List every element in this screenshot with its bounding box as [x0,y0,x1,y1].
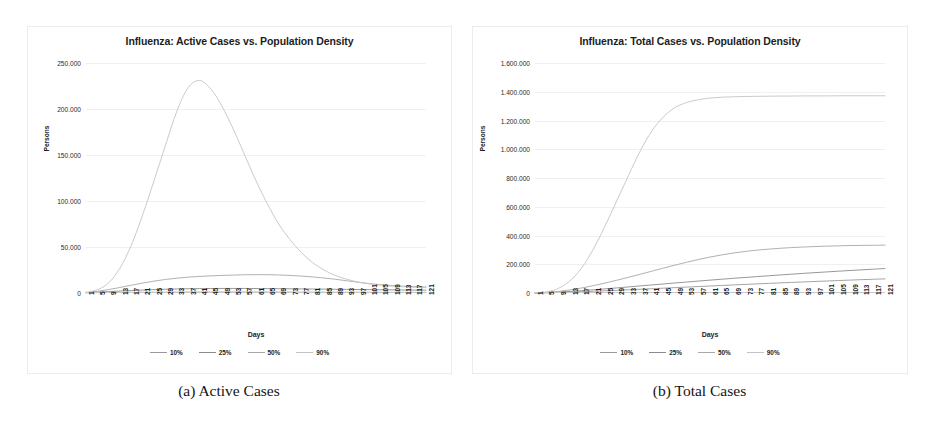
legend-item-25pct[interactable]: 25% [649,349,682,356]
y-axis-tick-label: 250.000 [57,60,81,67]
x-axis-tick-label: 61 [259,288,266,295]
x-axis-tick-label: 117 [876,285,883,296]
plot-area-total-cases: 0200.000400.000600.000800.0001.000.0001.… [535,63,885,293]
legend-swatch-icon [747,352,764,353]
series-line-90pct [86,80,426,292]
x-axis-tick-label: 85 [783,288,790,295]
x-axis-tick-label: 5 [100,291,107,295]
y-axis-tick-label: 200.000 [57,106,81,113]
x-axis-tick-label: 105 [383,284,390,295]
y-axis-title-active: Persons [43,116,50,162]
y-axis-tick-label: 200.000 [506,261,530,268]
legend-swatch-icon [150,352,167,353]
legend-total: 10%25%50%90% [473,349,907,356]
x-axis-tick-label: 45 [213,288,220,295]
x-axis-tick-label: 81 [315,288,322,295]
y-axis-tick-label: 50.000 [61,244,81,251]
x-axis-tick-label: 1 [89,291,96,295]
x-axis-tick-label: 69 [736,288,743,295]
x-axis-tick-label: 53 [236,288,243,295]
x-axis-tick-label: 21 [145,288,152,295]
legend-label: 50% [268,349,281,356]
figure-caption-b: (b) Total Cases [466,382,933,400]
legend-swatch-icon [649,352,666,353]
chart-title-total-cases: Influenza: Total Cases vs. Population De… [473,35,907,47]
legend-label: 25% [669,349,682,356]
plot-area-active-cases: 050.000100.000150.000200.000250.000 Days… [86,63,426,293]
series-lines-active [86,63,426,293]
x-axis-tick-label: 21 [596,288,603,295]
x-axis-tick-label: 1 [538,291,545,295]
y-axis-tick-label: 400.000 [506,232,530,239]
x-axis-tick-label: 17 [134,288,141,295]
x-axis-tick-label: 33 [179,288,186,295]
legend-swatch-icon [698,352,715,353]
legend-label: 90% [316,349,329,356]
x-axis-tick-label: 113 [864,285,871,296]
x-axis-tick-label: 37 [643,288,650,295]
x-axis-tick-label: 89 [794,288,801,295]
figure-caption-a: (a) Active Cases [0,382,466,400]
x-axis-ticks-total: Days 15913172125293337414549535761656973… [535,293,885,327]
x-axis-tick-label: 61 [713,288,720,295]
x-axis-title-active: Days [86,331,426,338]
x-axis-tick-label: 97 [361,288,368,295]
figure-panel-b: Influenza: Total Cases vs. Population De… [466,0,933,431]
x-axis-tick-label: 109 [395,284,402,295]
series-line-90pct [535,96,885,293]
x-axis-tick-label: 121 [429,284,436,295]
x-axis-tick-label: 105 [841,284,848,295]
x-axis-tick-label: 77 [759,288,766,295]
x-axis-title-total: Days [535,331,885,338]
legend-item-90pct[interactable]: 90% [747,349,780,356]
legend-label: 10% [170,349,183,356]
x-axis-tick-label: 113 [406,285,413,296]
y-axis-tick-label: 800.000 [506,175,530,182]
y-axis-tick-label: 0 [526,290,530,297]
legend-item-10pct[interactable]: 10% [150,349,183,356]
x-axis-tick-label: 41 [202,288,209,295]
legend-label: 10% [620,349,633,356]
y-axis-title-total: Persons [479,116,486,162]
x-axis-tick-label: 73 [293,288,300,295]
legend-item-90pct[interactable]: 90% [296,349,329,356]
y-axis-tick-label: 1.400.000 [501,88,530,95]
legend-label: 25% [219,349,232,356]
chart-container-total-cases: Influenza: Total Cases vs. Population De… [472,26,908,374]
x-axis-tick-label: 85 [327,288,334,295]
x-axis-tick-label: 5 [549,291,556,295]
legend-item-50pct[interactable]: 50% [248,349,281,356]
chart-title-active-cases: Influenza: Active Cases vs. Population D… [28,35,451,47]
x-axis-tick-label: 13 [573,288,580,295]
chart-container-active-cases: Influenza: Active Cases vs. Population D… [27,26,452,374]
y-axis-tick-label: 150.000 [57,152,81,159]
x-axis-tick-label: 109 [853,284,860,295]
legend-active: 10%25%50%90% [28,349,451,356]
x-axis-tick-label: 29 [168,288,175,295]
legend-label: 50% [718,349,731,356]
x-axis-tick-label: 33 [631,288,638,295]
x-axis-tick-label: 53 [689,288,696,295]
legend-swatch-icon [199,352,216,353]
x-axis-tick-label: 65 [724,288,731,295]
y-axis-tick-label: 1.200.000 [501,117,530,124]
legend-item-50pct[interactable]: 50% [698,349,731,356]
x-axis-tick-label: 49 [678,288,685,295]
legend-label: 90% [767,349,780,356]
x-axis-tick-label: 101 [829,284,836,295]
x-axis-tick-label: 45 [666,288,673,295]
y-axis-tick-label: 0 [77,290,81,297]
x-axis-tick-label: 97 [818,288,825,295]
y-axis-tick-label: 1.000.000 [501,146,530,153]
x-axis-tick-label: 101 [372,284,379,295]
series-lines-total [535,63,885,293]
x-axis-tick-label: 17 [584,288,591,295]
x-axis-tick-label: 77 [304,288,311,295]
x-axis-tick-label: 93 [806,288,813,295]
figure-row: Influenza: Active Cases vs. Population D… [0,0,933,431]
x-axis-tick-label: 25 [157,288,164,295]
legend-item-25pct[interactable]: 25% [199,349,232,356]
legend-item-10pct[interactable]: 10% [600,349,633,356]
x-axis-tick-label: 25 [608,288,615,295]
x-axis-tick-label: 9 [561,291,568,295]
